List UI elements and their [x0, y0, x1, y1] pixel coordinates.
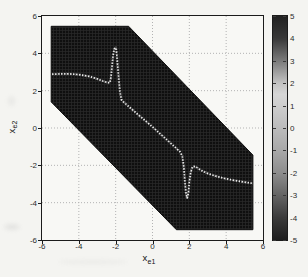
scan-smudge [4, 224, 20, 230]
colorbar-tick-mark [273, 61, 276, 62]
plot-area [41, 15, 264, 241]
figure-canvas: xe1 xe2 -6-4-202466420-2-4-6543210-1-2-3… [0, 0, 308, 277]
x-tick-label: 0 [150, 242, 154, 251]
colorbar-tick-mark [283, 195, 286, 196]
y-tick-label: -2 [21, 161, 37, 170]
colorbar-tick-mark [273, 16, 276, 17]
y-tick-label: 4 [21, 49, 37, 58]
y-tick-mark [38, 203, 41, 204]
colorbar-tick-mark [273, 83, 276, 84]
colorbar-tick-label: -4 [290, 213, 297, 222]
colorbar-tick-mark [283, 38, 286, 39]
colorbar-tick-label: -5 [290, 236, 297, 245]
colorbar-tick-label: 1 [290, 101, 294, 110]
colorbar-tick-mark [273, 150, 276, 151]
colorbar-tick-mark [283, 173, 286, 174]
y-axis-label-subscript: e2 [11, 120, 18, 128]
colorbar-tick-mark [273, 195, 276, 196]
colorbar-tick-label: 2 [290, 79, 294, 88]
y-axis-label-base: x [6, 129, 17, 134]
x-tick-label: -2 [112, 242, 119, 251]
colorbar-tick-mark [283, 16, 286, 17]
x-axis-label-subscript: e1 [147, 258, 155, 265]
y-tick-mark [38, 165, 41, 166]
y-tick-label: -4 [21, 198, 37, 207]
y-tick-mark [38, 240, 41, 241]
colorbar-tick-mark [283, 240, 286, 241]
y-tick-label: 2 [21, 86, 37, 95]
x-tick-label: 4 [224, 242, 228, 251]
colorbar-tick-mark [283, 61, 286, 62]
x-tick-label: 6 [261, 242, 265, 251]
scan-smudge [8, 96, 15, 106]
colorbar-tick-label: 0 [290, 124, 294, 133]
x-tick-label: -4 [75, 242, 82, 251]
y-tick-mark [38, 128, 41, 129]
colorbar-tick-mark [273, 240, 276, 241]
colorbar-tick-label: -3 [290, 191, 297, 200]
y-axis-label: xe2 [6, 120, 19, 133]
x-axis-label: xe1 [142, 252, 155, 265]
colorbar-tick-label: 3 [290, 56, 294, 65]
colorbar-tick-mark [283, 128, 286, 129]
y-tick-label: 0 [21, 124, 37, 133]
plot-svg [42, 16, 263, 240]
y-tick-mark [38, 16, 41, 17]
x-tick-label: 2 [187, 242, 191, 251]
colorbar-tick-mark [273, 173, 276, 174]
colorbar-tick-mark [283, 83, 286, 84]
colorbar-tick-mark [273, 106, 276, 107]
colorbar-tick-mark [273, 128, 276, 129]
x-tick-label: -6 [38, 242, 45, 251]
y-tick-label: -6 [21, 236, 37, 245]
y-tick-mark [38, 91, 41, 92]
colorbar-tick-mark [283, 106, 286, 107]
colorbar-tick-label: -2 [290, 168, 297, 177]
colorbar-tick-mark [273, 38, 276, 39]
y-tick-mark [38, 53, 41, 54]
colorbar-tick-mark [283, 150, 286, 151]
colorbar-tick-mark [283, 218, 286, 219]
colorbar-tick-label: 5 [290, 12, 294, 21]
colorbar-tick-label: -1 [290, 146, 297, 155]
colorbar-tick-mark [273, 218, 276, 219]
colorbar-tick-label: 4 [290, 34, 294, 43]
y-tick-label: 6 [21, 12, 37, 21]
scan-smudge [58, 260, 128, 264]
